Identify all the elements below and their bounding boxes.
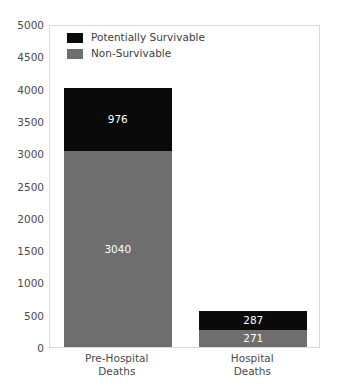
bar-segment[interactable]: 3040 [64,151,172,347]
bar-segment[interactable]: 287 [199,311,307,330]
y-axis-tick-label: 0 [0,343,44,354]
stacked-bar-chart: 5000450040003500300025002000150010005000… [0,0,337,388]
cropped-title-remnant [0,0,337,4]
bar-segment[interactable]: 271 [199,330,307,348]
y-axis-tick-label: 5000 [0,20,44,31]
y-axis-tick-label: 500 [0,310,44,321]
plot-area: Potentially SurvivableNon-Survivable 304… [49,25,320,348]
x-axis-tick-label-line2: Deaths [231,365,274,378]
x-axis: Pre-HospitalDeathsHospitalDeaths [49,352,320,386]
bar-segment-value-label: 3040 [104,244,131,255]
y-axis: 5000450040003500300025002000150010005000 [0,25,44,348]
x-axis-tick-label: HospitalDeaths [231,352,274,378]
y-axis-tick-label: 4000 [0,84,44,95]
y-axis-tick-label: 2000 [0,214,44,225]
y-axis-tick-label: 1500 [0,246,44,257]
y-axis-tick-label: 3500 [0,117,44,128]
y-axis-tick-label: 2500 [0,181,44,192]
bar-segment-value-label: 287 [243,315,263,326]
x-axis-tick-label-line1: Hospital [231,352,274,365]
y-axis-tick-label: 4500 [0,52,44,63]
bar-group[interactable]: 3040976 [64,24,172,347]
bar-segment-value-label: 271 [243,333,263,344]
x-axis-tick-label: Pre-HospitalDeaths [85,352,148,378]
y-axis-tick-label: 1000 [0,278,44,289]
bar-group[interactable]: 271287 [199,24,307,347]
x-axis-tick-label-line1: Pre-Hospital [85,352,148,365]
bar-segment[interactable]: 976 [64,88,172,151]
bar-segment-value-label: 976 [108,114,128,125]
x-axis-tick-label-line2: Deaths [85,365,148,378]
y-axis-tick-label: 3000 [0,149,44,160]
